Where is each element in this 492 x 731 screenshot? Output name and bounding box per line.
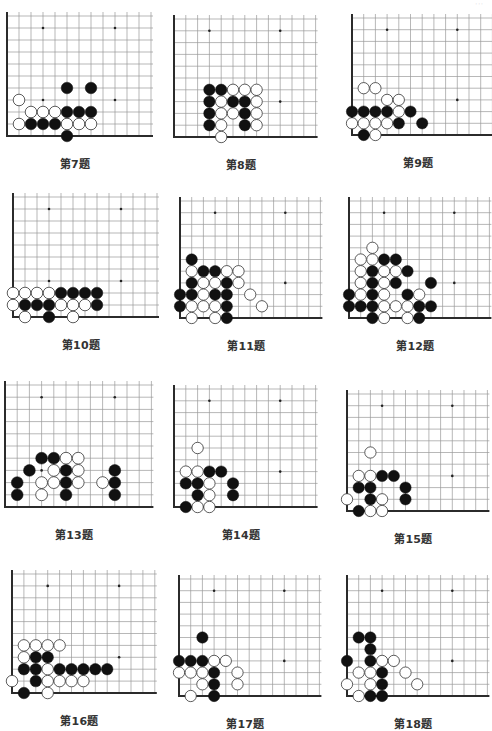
black-stone [376, 690, 387, 701]
white-stone [400, 667, 411, 678]
white-stone [365, 667, 376, 678]
black-stone [365, 655, 376, 666]
black-stone [376, 667, 387, 678]
star-point-icon [451, 589, 454, 592]
white-stone [341, 679, 352, 690]
star-point-icon [381, 589, 384, 592]
black-stone [341, 655, 352, 666]
black-stone [365, 644, 376, 655]
white-stone [412, 679, 423, 690]
black-stone [376, 679, 387, 690]
white-stone [388, 655, 399, 666]
white-stone [353, 690, 364, 701]
star-point-icon [451, 660, 454, 663]
problem-label: 第18题 [394, 715, 433, 731]
white-stone [353, 667, 364, 678]
black-stone [365, 690, 376, 701]
white-stone [365, 679, 376, 690]
black-stone [365, 632, 376, 643]
white-stone [376, 655, 387, 666]
black-stone [353, 632, 364, 643]
